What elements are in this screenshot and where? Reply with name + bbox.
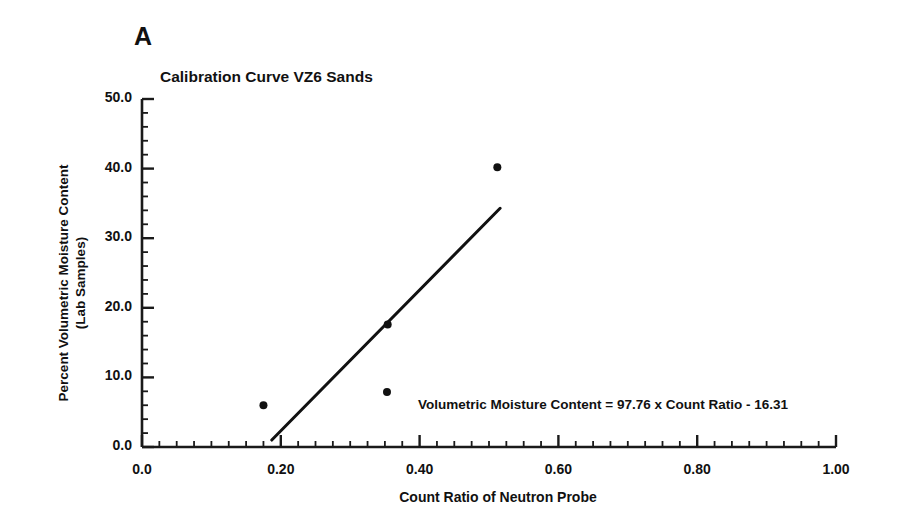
data-point xyxy=(383,388,391,396)
data-point xyxy=(259,401,267,409)
plot-area xyxy=(0,0,904,529)
figure-panel: A Calibration Curve VZ6 Sands Percent Vo… xyxy=(0,0,904,529)
data-point xyxy=(493,163,501,171)
regression-line xyxy=(272,208,500,440)
